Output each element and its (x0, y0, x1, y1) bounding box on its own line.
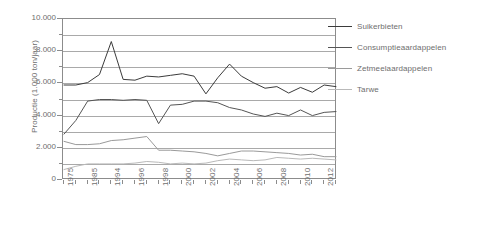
x-axis-tick-mark (300, 180, 301, 184)
x-axis-tick-mark (276, 180, 277, 184)
plot-area (62, 18, 336, 179)
x-axis-tick-mark (181, 180, 182, 184)
x-axis-tick-mark (87, 180, 88, 184)
x-axis-tick-mark (205, 180, 206, 184)
chart-legend: SuikerbietenConsumptieaardappelenZetmeel… (328, 16, 477, 100)
x-axis-tick-mark (229, 180, 230, 184)
legend-item[interactable]: Tarwe (328, 79, 477, 100)
x-axis-tick-label: 1996 (137, 168, 146, 186)
x-axis-tick-mark (335, 180, 336, 184)
x-axis-tick-label: 2004 (232, 168, 241, 186)
legend-line-icon (328, 89, 352, 90)
y-axis-tick-label: 10.000 (32, 14, 56, 22)
legend-item-label: Consumptieaardappelen (357, 43, 446, 52)
series-line (64, 157, 336, 169)
legend-line-icon (328, 68, 352, 69)
x-axis-tick-mark (158, 180, 159, 184)
legend-item[interactable]: Zetmeelaardappelen (328, 58, 477, 79)
x-axis-tick-label: 2012 (326, 168, 335, 186)
series-line (64, 42, 336, 94)
x-axis-tick-label: 1994 (113, 168, 122, 186)
series-lines (63, 19, 337, 180)
x-axis-tick-mark (252, 180, 253, 184)
x-axis-tick-label: 2000 (184, 168, 193, 186)
legend-item-label: Zetmeelaardappelen (357, 64, 432, 73)
x-axis-tick-label: 2002 (208, 168, 217, 186)
legend-item[interactable]: Consumptieaardappelen (328, 37, 477, 58)
x-axis-tick-label: 1998 (161, 168, 170, 186)
y-axis-tick-label: 4.000 (36, 111, 56, 119)
y-axis-tick-mark (57, 179, 62, 180)
x-axis-tick-mark (323, 180, 324, 184)
legend-item-label: Suikerbieten (357, 22, 403, 31)
x-axis-tick-mark (264, 180, 265, 184)
x-axis-tick-label: 1985 (90, 168, 99, 186)
series-line (64, 137, 336, 157)
y-axis-tick-label: 8.000 (36, 46, 56, 54)
x-axis-tick-label: 2010 (303, 168, 312, 186)
y-axis-tick-label: 0 (52, 175, 56, 183)
x-axis-tick-mark (193, 180, 194, 184)
x-axis-tick-mark (110, 180, 111, 184)
legend-line-icon (328, 47, 352, 48)
series-line (64, 100, 336, 135)
x-axis-tick-label: 1975 (66, 168, 75, 186)
legend-line-icon (328, 26, 352, 27)
chart-container: Productie (1.000 ton/jaar) 02.0004.0006.… (0, 0, 477, 227)
x-axis-tick-mark (63, 180, 64, 184)
x-axis-tick-mark (134, 180, 135, 184)
x-axis-tick-label: 2008 (279, 168, 288, 186)
x-axis-tick-label: 2006 (255, 168, 264, 186)
x-axis-tick-mark (122, 180, 123, 184)
y-axis-tick-label: 6.000 (36, 78, 56, 86)
y-axis-tick-label: 2.000 (36, 143, 56, 151)
legend-item[interactable]: Suikerbieten (328, 16, 477, 37)
legend-item-label: Tarwe (357, 85, 379, 94)
